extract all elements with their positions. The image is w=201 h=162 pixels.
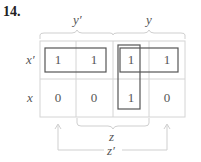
row-label-x-prime: x′: [25, 52, 35, 67]
brace-z: [77, 118, 149, 129]
brace-y: [113, 30, 185, 39]
kmap-cell: 1: [55, 52, 62, 67]
kmap-cell: 1: [164, 52, 171, 67]
label-y: y: [144, 12, 152, 27]
kmap-cell: 0: [91, 90, 98, 105]
kmap-cell: 1: [128, 90, 135, 105]
label-y-prime: y′: [71, 12, 82, 27]
row-label-x: x: [26, 90, 33, 105]
kmap-cell: 1: [128, 52, 135, 67]
kmap-cell: 1: [91, 52, 98, 67]
label-z-prime: z′: [106, 143, 115, 158]
karnaugh-map: y′ y x′ x 1 1 1 1 0 0 1 0 z z′: [0, 0, 201, 162]
kmap-cell: 0: [55, 90, 62, 105]
brace-y-prime: [40, 30, 113, 39]
label-z: z: [108, 129, 114, 144]
kmap-cell: 0: [164, 90, 171, 105]
